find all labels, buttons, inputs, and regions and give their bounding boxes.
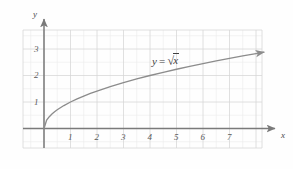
graph-canvas (0, 0, 293, 169)
x-tick-label-5: 5 (174, 133, 179, 142)
x-tick-label-6: 6 (201, 133, 206, 142)
grid-minor (23, 30, 262, 148)
x-tick-label-3: 3 (121, 133, 126, 142)
equation-equals: = (157, 55, 167, 67)
x-tick-label-2: 2 (95, 133, 100, 142)
x-axis-label: x (281, 131, 285, 140)
x-tick-label-1: 1 (68, 133, 73, 142)
curve-equation-label: y=√x (152, 54, 179, 69)
y-tick-label-2: 2 (34, 71, 39, 80)
radical-expression: √x (168, 54, 180, 69)
y-axis-label: y (33, 10, 37, 19)
y-tick-label-1: 1 (34, 98, 39, 107)
figure-container: y x 3 2 1 1 2 3 4 5 6 7 y=√x (0, 0, 293, 169)
x-tick-label-4: 4 (148, 133, 153, 142)
x-tick-label-7: 7 (227, 133, 232, 142)
y-tick-label-3: 3 (34, 45, 39, 54)
radicand: x (173, 53, 179, 66)
